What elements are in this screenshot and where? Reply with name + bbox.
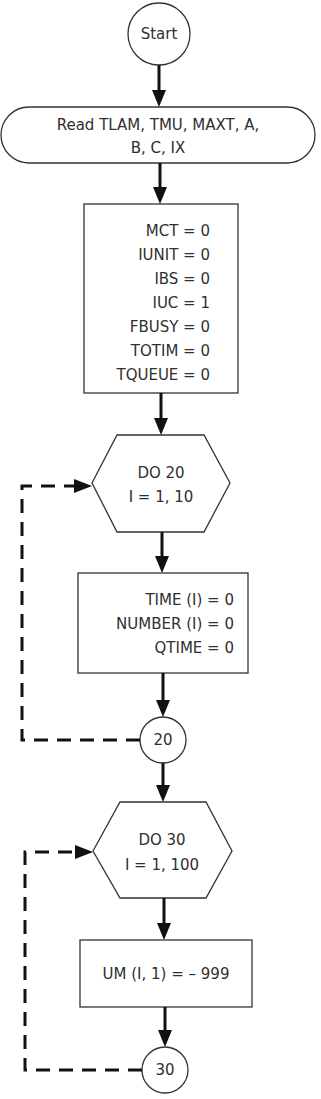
start-node: Start: [128, 3, 190, 65]
arrow-head-icon: [155, 556, 169, 573]
init-line: IUC = 1: [152, 294, 210, 312]
init-line: MCT = 0: [146, 222, 210, 240]
arrow-head-icon: [152, 90, 166, 107]
arrow-body-to-30: [158, 1007, 172, 1047]
arrow-read-to-init: [153, 163, 167, 204]
arrow-head-icon: [156, 785, 170, 802]
arrow-head-icon: [154, 418, 168, 435]
init-line: FBUSY = 0: [130, 318, 210, 336]
do30-hexagon: [93, 802, 232, 898]
loop2-body-box: UM (I, 1) = – 999: [80, 940, 252, 1007]
init-line: TQUEUE = 0: [115, 366, 210, 384]
read-label-line1: Read TLAM, TMU, MAXT, A,: [57, 116, 260, 134]
init-line: IUNIT = 0: [138, 246, 210, 264]
start-label: Start: [141, 25, 178, 43]
arrow-head-icon: [75, 845, 93, 859]
arrow-20-to-do30: [156, 763, 170, 802]
arrow-body-to-20: [156, 673, 170, 717]
loop1-line: QTIME = 0: [155, 639, 234, 657]
arrow-head-icon: [157, 923, 171, 940]
init-process-box: MCT = 0 IUNIT = 0 IBS = 0 IUC = 1 FBUSY …: [84, 204, 238, 393]
arrow-head-icon: [153, 187, 167, 204]
flowchart-canvas: Start Read TLAM, TMU, MAXT, A, B, C, IX …: [0, 0, 321, 1099]
arrow-head-icon: [74, 479, 92, 493]
arrow-start-to-read: [152, 65, 166, 107]
loop1-body-box: TIME (I) = 0 NUMBER (I) = 0 QTIME = 0: [78, 573, 248, 673]
connector-20: 20: [140, 717, 186, 763]
connector-30-label: 30: [155, 1061, 174, 1079]
do30-loop-header: DO 30 I = 1, 100: [93, 802, 232, 898]
arrow-do20-to-body: [155, 532, 169, 573]
arrow-head-icon: [156, 700, 170, 717]
loop1-line: TIME (I) = 0: [144, 591, 234, 609]
connector-30: 30: [142, 1047, 188, 1093]
do20-loop-header: DO 20 I = 1, 10: [92, 435, 230, 532]
loop1-line: NUMBER (I) = 0: [116, 615, 234, 633]
do30-line1: DO 30: [138, 831, 185, 849]
loop2-line: UM (I, 1) = – 999: [103, 965, 230, 983]
arrow-do30-to-body: [157, 898, 171, 940]
do20-line1: DO 20: [137, 464, 184, 482]
arrow-init-to-do20: [154, 393, 168, 435]
read-label-line2: B, C, IX: [131, 139, 186, 157]
do20-hexagon: [92, 435, 230, 532]
init-line: TOTIM = 0: [130, 342, 210, 360]
do30-line2: I = 1, 100: [125, 856, 199, 874]
read-input-node: Read TLAM, TMU, MAXT, A, B, C, IX: [1, 107, 315, 163]
init-line: IBS = 0: [154, 270, 210, 288]
arrow-head-icon: [158, 1030, 172, 1047]
do20-line2: I = 1, 10: [129, 488, 194, 506]
connector-20-label: 20: [153, 731, 172, 749]
